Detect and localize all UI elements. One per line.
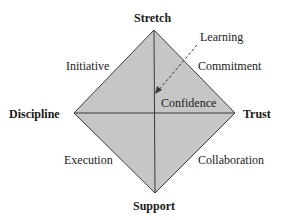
edge-top-right-label: Commitment [198,60,261,72]
pole-top-label: Stretch [134,12,171,24]
edge-bottom-right-label: Collaboration [198,154,264,166]
edge-top-left-label: Initiative [66,60,109,72]
pole-bottom-label: Support [133,200,175,212]
center-label: Confidence [161,97,216,109]
edge-bottom-left-label: Execution [64,154,113,166]
pole-right-label: Trust [243,108,271,120]
arrow-label-learning: Learning [200,31,243,43]
pole-left-label: Discipline [9,108,60,120]
